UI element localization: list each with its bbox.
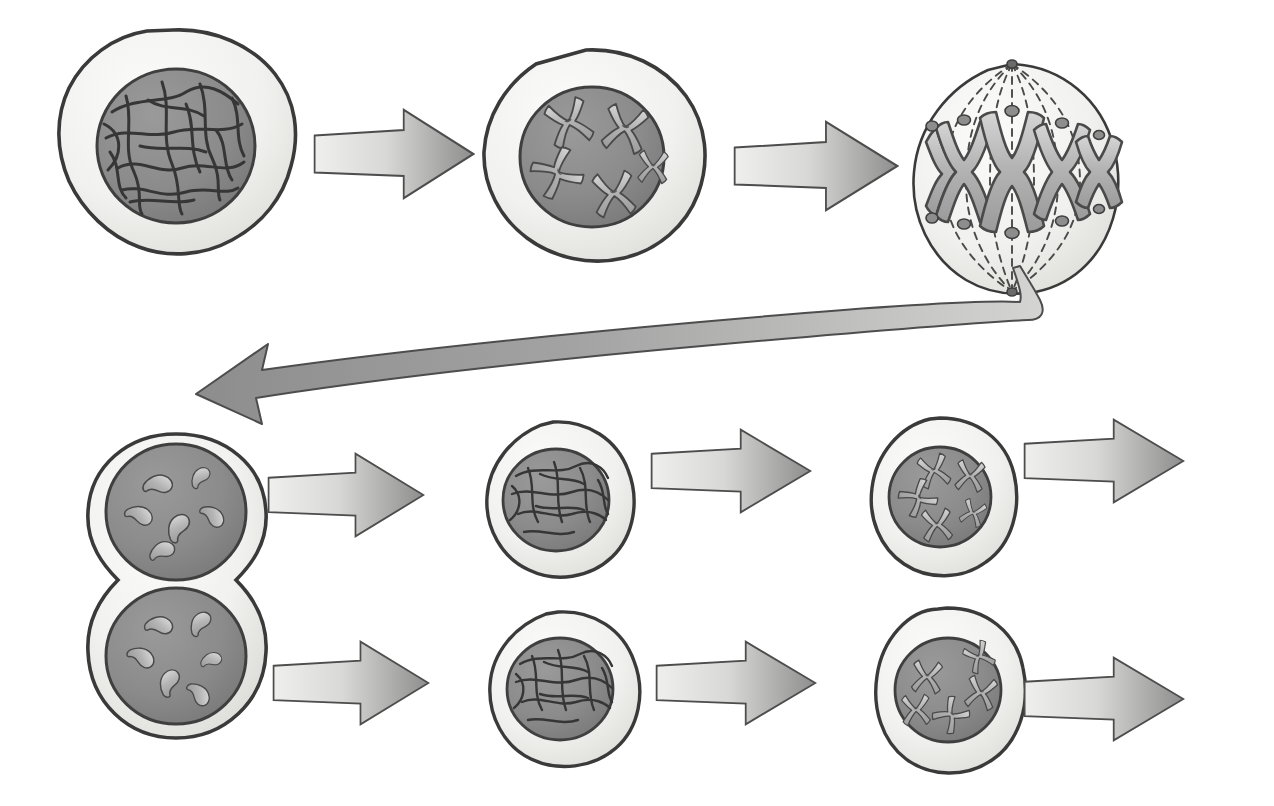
arrow-interphase-b-to-prophase-b [657, 642, 816, 725]
stage-prophase-1 [484, 50, 705, 261]
spindle-pole-bottom [1007, 288, 1017, 296]
arrow-prophase-a-out [1025, 420, 1184, 503]
arrow-telophase-to-interphase-b [274, 642, 429, 725]
arrow-prophase-to-metaphase [735, 122, 898, 210]
cell-cycle-diagram: Mitotic cell cycle illustration [0, 0, 1274, 806]
stage-prophase-2b [876, 608, 1026, 773]
stage-metaphase-1 [913, 60, 1122, 296]
arrow-interphase-a-to-prophase-a [652, 430, 811, 513]
spindle-pole-top [1007, 60, 1017, 68]
stage-telophase-1 [88, 434, 266, 738]
arrow-interphase-to-prophase [315, 110, 474, 198]
stage-interphase-2a [487, 422, 634, 577]
arrow-return-to-daughters [196, 266, 1043, 424]
arrow-prophase-b-out [1025, 658, 1184, 741]
stage-interphase-2b [490, 612, 640, 767]
diagram-canvas [0, 0, 1274, 806]
stage-prophase-2a [871, 418, 1016, 576]
nucleus-interphase-1 [97, 69, 255, 223]
stage-interphase-1 [59, 30, 296, 254]
arrow-telophase-to-interphase-a [269, 454, 424, 537]
